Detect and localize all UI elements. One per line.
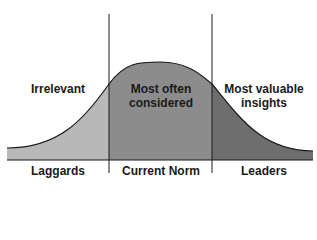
label-most-often-considered: Most often considered [118,82,204,110]
label-leaders: Leaders [220,164,308,178]
label-current-norm: Current Norm [112,164,210,178]
label-laggards: Laggards [18,164,98,178]
label-irrelevant: Irrelevant [18,82,98,96]
label-most-valuable-insights: Most valuable insights [220,82,308,110]
